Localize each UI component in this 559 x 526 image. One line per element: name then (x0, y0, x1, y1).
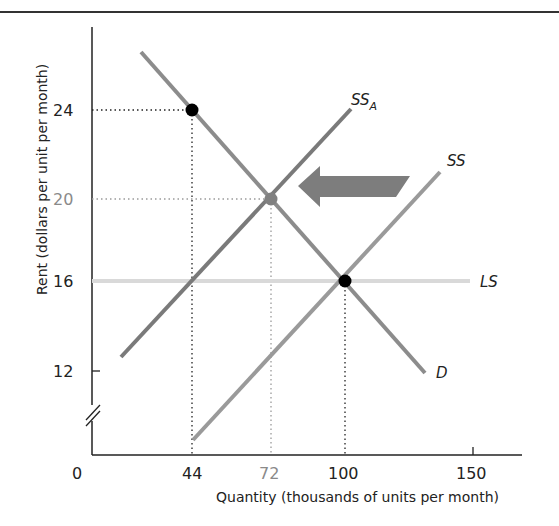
ls-label: LS (480, 273, 498, 291)
rent-market-chart: 24 20 16 12 0 44 72 100 150 Rent (dollar… (0, 0, 559, 526)
x-tick-label-44: 44 (182, 464, 202, 483)
x-tick-label-0: 0 (72, 464, 82, 483)
ss-label: SS (447, 152, 466, 170)
shift-left-arrow-icon (298, 166, 410, 207)
point-100-16 (339, 275, 352, 288)
y-tick-label-16: 16 (53, 272, 73, 291)
x-axis-title: Quantity (thousands of units per month) (216, 489, 499, 505)
y-tick-label-20: 20 (53, 190, 73, 209)
point-44-24 (186, 104, 199, 117)
y-tick-label-12: 12 (53, 362, 73, 381)
ss-curve (193, 172, 440, 440)
ssa-label: SSA (351, 91, 377, 113)
ssa-curve (121, 109, 351, 357)
y-axis-title: Rent (dollars per unit per month) (34, 64, 50, 295)
d-label: D (436, 364, 448, 382)
x-tick-label-72: 72 (259, 464, 279, 483)
point-72-20 (265, 193, 278, 206)
x-tick-label-150: 150 (456, 464, 487, 483)
y-tick-label-24: 24 (53, 101, 73, 120)
x-tick-label-100: 100 (328, 464, 359, 483)
demand-curve (141, 52, 425, 373)
